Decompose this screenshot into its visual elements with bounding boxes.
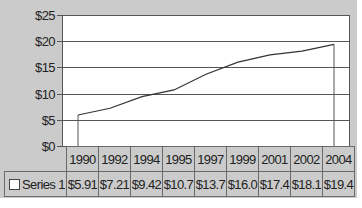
value-cell: $19.4 <box>323 172 355 197</box>
category-label: 2002 <box>291 147 323 172</box>
category-label: 2001 <box>259 147 291 172</box>
value-cell: $9.42 <box>131 172 163 197</box>
value-cell: $17.4 <box>259 172 291 197</box>
y-tick-label: $15 <box>0 60 55 75</box>
series-row: Series 1 $5.91$7.21$9.42$10.7$13.7$16.0$… <box>5 172 355 197</box>
y-tick-label: $25 <box>0 8 55 23</box>
value-cell: $18.1 <box>291 172 323 197</box>
category-row: 199019921994199519971999200120022004 <box>5 147 355 172</box>
plot-background <box>62 15 350 146</box>
legend-entry: Series 1 <box>5 172 67 197</box>
value-cell: $5.91 <box>67 172 99 197</box>
value-cell: $7.21 <box>99 172 131 197</box>
y-tick-label: $20 <box>0 34 55 49</box>
data-table: 199019921994199519971999200120022004 Ser… <box>4 146 355 197</box>
category-label: 1997 <box>195 147 227 172</box>
legend-key-icon <box>9 179 20 190</box>
value-cell: $13.7 <box>195 172 227 197</box>
chart-area: $0$5$10$15$20$25 19901992199419951997199… <box>0 0 357 198</box>
value-cell: $16.0 <box>227 172 259 197</box>
data-table-corner <box>5 147 67 172</box>
category-label: 1995 <box>163 147 195 172</box>
category-label: 1999 <box>227 147 259 172</box>
category-label: 1990 <box>67 147 99 172</box>
y-tick-label: $5 <box>0 113 55 128</box>
category-label: 1992 <box>99 147 131 172</box>
value-cell: $10.7 <box>163 172 195 197</box>
y-tick-label: $10 <box>0 87 55 102</box>
category-label: 2004 <box>323 147 355 172</box>
category-label: 1994 <box>131 147 163 172</box>
series-name: Series 1 <box>22 177 65 192</box>
